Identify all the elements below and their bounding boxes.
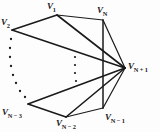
ellipsis-dot (74, 72, 76, 74)
vertex-label-vn-minus-2: VN − 2 (56, 119, 76, 130)
ellipsis-dot (9, 47, 11, 49)
outer-ellipsis-dots (9, 38, 26, 98)
graph-edges (12, 15, 125, 117)
ellipsis-dot (10, 65, 12, 67)
ellipsis-dot (74, 56, 76, 58)
ellipsis-dot (12, 74, 14, 76)
edge-v1-v2 (12, 15, 57, 30)
vertex-label-vn-minus-1: VN − 1 (105, 113, 125, 124)
ellipsis-dot (10, 38, 12, 40)
vertex-label-v2: V2 (1, 18, 10, 29)
edge-v1-hub (57, 15, 125, 68)
edge-vn3-vn2 (28, 104, 66, 117)
edge-v2-hub (12, 30, 125, 68)
ellipsis-dot (9, 56, 11, 58)
ellipsis-dot (74, 64, 76, 66)
ellipsis-dot (24, 96, 26, 98)
graph-figure: V1 V2 VN VN + 1 VN − 3 VN − 2 VN − 1 (0, 0, 160, 132)
edge-vn3-hub (28, 68, 125, 104)
ellipsis-dot (15, 82, 17, 84)
edge-vn-hub (103, 20, 125, 68)
vertex-label-vn-plus-1: VN + 1 (128, 62, 148, 73)
vertex-label-vn-minus-3: VN − 3 (2, 108, 22, 119)
vertex-label-v1: V1 (47, 2, 56, 13)
edge-vnm1-hub (103, 68, 125, 108)
inner-ellipsis-dots (74, 56, 77, 82)
ellipsis-dot (75, 80, 77, 82)
ellipsis-dot (19, 90, 21, 92)
vertex-label-vn: VN (97, 6, 107, 17)
